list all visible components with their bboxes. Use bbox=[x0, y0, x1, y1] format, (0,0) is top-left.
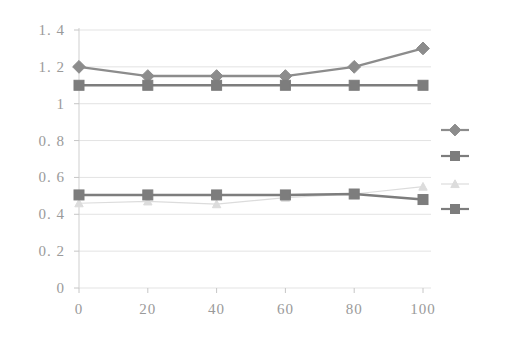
data-point-square bbox=[280, 190, 290, 200]
x-tick-label: 40 bbox=[208, 301, 225, 317]
data-point-square bbox=[74, 190, 84, 200]
y-tick-label: 1. 4 bbox=[39, 22, 66, 38]
data-point-square bbox=[74, 80, 84, 90]
x-tick-label: 60 bbox=[277, 301, 294, 317]
y-tick-label: 0 bbox=[57, 280, 66, 296]
y-tick-label: 0. 4 bbox=[39, 206, 66, 222]
y-tick-label: 0. 8 bbox=[39, 133, 66, 149]
y-tick-label: 0. 2 bbox=[39, 243, 66, 259]
chart-container: 1. 41. 210. 80. 60. 40. 20 020406080100 bbox=[0, 0, 515, 339]
data-point-square bbox=[349, 80, 359, 90]
data-point-square bbox=[212, 80, 222, 90]
data-point-square bbox=[349, 189, 359, 199]
x-tick-label: 80 bbox=[346, 301, 363, 317]
x-tick-label: 20 bbox=[139, 301, 156, 317]
data-point-square bbox=[143, 80, 153, 90]
data-point-square bbox=[280, 80, 290, 90]
data-point-square bbox=[451, 152, 460, 161]
data-point-square bbox=[451, 205, 460, 214]
data-point-square bbox=[143, 190, 153, 200]
line-chart: 1. 41. 210. 80. 60. 40. 20 020406080100 bbox=[0, 0, 515, 339]
y-tick-label: 0. 6 bbox=[39, 169, 66, 185]
data-point-square bbox=[418, 80, 428, 90]
x-tick-label: 100 bbox=[410, 301, 436, 317]
data-point-square bbox=[212, 190, 222, 200]
data-point-square bbox=[418, 195, 428, 205]
y-tick-label: 1. 2 bbox=[39, 59, 66, 75]
x-tick-label: 0 bbox=[75, 301, 84, 317]
y-tick-label: 1 bbox=[57, 96, 66, 112]
